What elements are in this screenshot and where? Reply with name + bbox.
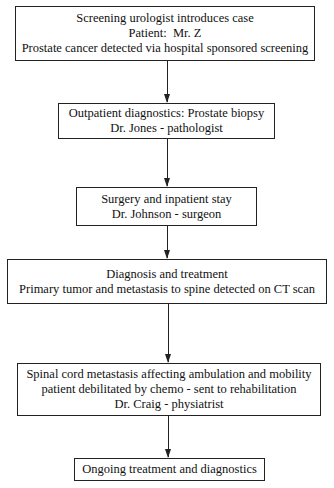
node-surgery: Surgery and inpatient stay Dr. Johnson -… [76, 187, 257, 226]
node-text: Dr. Jones - pathologist [59, 121, 274, 136]
node-text: Dr. Johnson - surgeon [77, 207, 256, 222]
node-text: Prostate cancer detected via hospital sp… [16, 41, 314, 56]
node-text: Screening urologist introduces case [16, 11, 314, 26]
node-text: Surgery and inpatient stay [77, 192, 256, 207]
node-rehab: Spinal cord metastasis affecting ambulat… [17, 363, 321, 416]
arrow-screening-to-outpatient [167, 61, 168, 102]
arrow-diagnosis-to-rehab [168, 304, 169, 362]
node-text: Dr. Craig - physiatrist [18, 397, 320, 412]
node-ongoing: Ongoing treatment and diagnostics [74, 458, 265, 481]
node-text: Diagnosis and treatment [8, 267, 326, 282]
node-text: Outpatient diagnostics: Prostate biopsy [59, 106, 274, 121]
node-screening: Screening urologist introduces case Pati… [15, 6, 315, 61]
node-text: Spinal cord metastasis affecting ambulat… [18, 367, 320, 382]
arrow-surgery-to-diagnosis [167, 226, 168, 258]
node-text: patient debilitated by chemo - sent to r… [18, 382, 320, 397]
node-text: Primary tumor and metastasis to spine de… [8, 282, 326, 297]
node-diagnosis: Diagnosis and treatment Primary tumor an… [7, 259, 327, 304]
arrow-rehab-to-ongoing [168, 416, 169, 457]
arrow-outpatient-to-surgery [167, 139, 168, 186]
node-text: Ongoing treatment and diagnostics [75, 462, 264, 477]
node-text: Patient: Mr. Z [16, 26, 314, 41]
node-outpatient: Outpatient diagnostics: Prostate biopsy … [58, 103, 275, 139]
